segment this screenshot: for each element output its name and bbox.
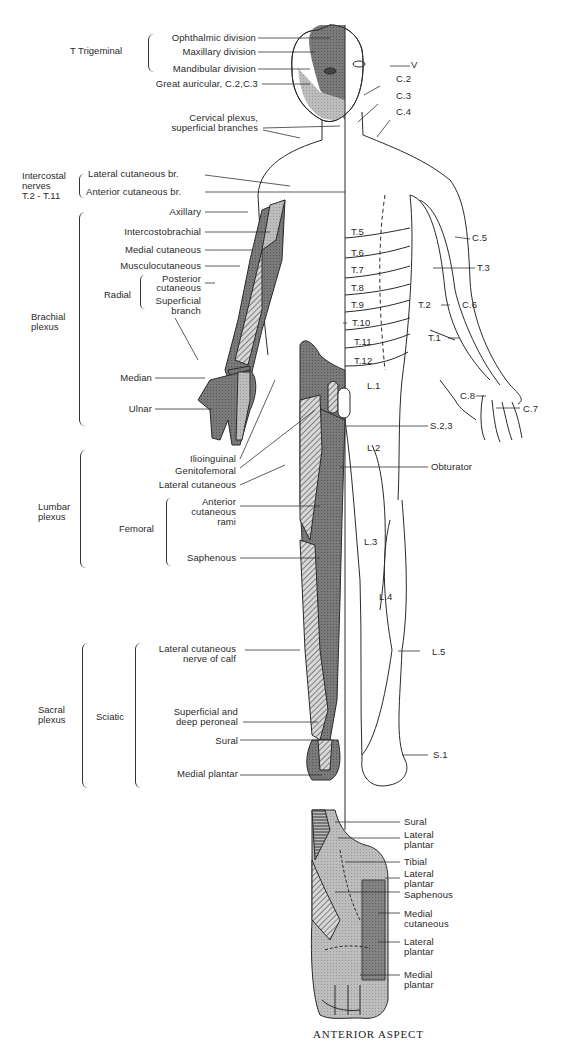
dermatome-T10: T.10 (352, 318, 370, 328)
foot-label-lateral-plantar-3b: plantar (404, 947, 434, 957)
brace-sacral (82, 643, 88, 788)
dermatome-L1: L.1 (367, 381, 381, 391)
group-sciatic: Sciatic (96, 712, 124, 722)
group-intercostal: Intercostal nerves T.2 - T.11 (22, 171, 66, 201)
group-lumbar: Lumbar plexus (38, 502, 70, 522)
dermatome-T2: T.2 (418, 300, 431, 310)
dermatome-C8: C.8 (460, 391, 475, 401)
group-trigeminal: T Trigeminal (70, 46, 122, 56)
label-median: Median (120, 373, 152, 383)
label-axillary: Axillary (170, 207, 201, 217)
label-peroneal-2: deep peroneal (176, 717, 238, 727)
dermatome-T5: T.5 (351, 227, 364, 237)
dermatome-S1: S.1 (433, 750, 448, 760)
label-genitofemoral: Genitofemoral (175, 466, 236, 476)
group-lumbar-line2: plexus (38, 512, 70, 522)
label-maxillary: Maxillary division (182, 47, 256, 57)
dermatome-T9: T.9 (351, 300, 364, 310)
brace-trigeminal (148, 34, 154, 72)
foot-label-tibial: Tibial (404, 857, 427, 867)
brace-radial (140, 275, 145, 309)
dermatome-C2: C.2 (396, 74, 411, 84)
dermatome-T6: T.6 (351, 248, 364, 258)
dermatome-C4: C.4 (396, 107, 411, 117)
dermatome-T11: T.11 (354, 337, 372, 347)
dermatome-V: V (411, 60, 417, 70)
label-calf-2: nerve of calf (183, 654, 236, 664)
label-lateral-cutaneous-br: Lateral cutaneous br. (88, 169, 179, 179)
dermatome-L2: L.2 (367, 443, 381, 453)
dermatome-T7: T.7 (351, 265, 364, 275)
foot-label-sural: Sural (404, 817, 427, 827)
label-cervical-plexus-2: superficial branches (172, 123, 259, 133)
group-brachial-line2: plexus (31, 322, 65, 332)
dermatome-C3: C.3 (396, 91, 411, 101)
label-posterior-cutaneous-2: cutaneous (156, 283, 201, 293)
foot-label-medial-cutaneous-b: cutaneous (404, 919, 449, 929)
dermatome-T8: T.8 (351, 283, 364, 293)
label-musculocutaneous: Musculocutaneous (120, 261, 201, 271)
body-outline (198, 25, 522, 830)
group-sacral-line2: plexus (38, 715, 65, 725)
brace-lumbar (80, 450, 86, 568)
foot-label-saphenous: Saphenous (404, 890, 453, 900)
brace-sciatic (135, 643, 141, 788)
label-medial-cutaneous: Medial cutaneous (125, 245, 201, 255)
dermatome-T1: T.1 (428, 333, 441, 343)
brace-brachial (79, 212, 85, 426)
label-mandibular: Mandibular division (173, 64, 256, 74)
dermatome-S23: S.2,3 (430, 421, 453, 431)
label-lateral-cutaneous: Lateral cutaneous (159, 480, 236, 490)
foot-label-lateral-plantar-1b: plantar (404, 840, 434, 850)
label-saphenous: Saphenous (187, 553, 236, 563)
group-intercostal-line3: T.2 - T.11 (22, 191, 66, 201)
label-great-auricular: Great auricular, C.2,C.3 (156, 79, 258, 89)
dermatome-T3: T.3 (477, 263, 490, 273)
label-superficial-branch-2: branch (171, 306, 201, 316)
label-medial-plantar: Medial plantar (177, 769, 238, 779)
foot-label-lateral-plantar-2b: plantar (404, 879, 434, 889)
brace-intercostal (79, 174, 84, 198)
dermatome-C6: C.6 (462, 300, 477, 310)
dermatome-L3: L.3 (364, 537, 378, 547)
dermatome-L5: L.5 (432, 647, 446, 657)
group-femoral: Femoral (119, 524, 154, 534)
dermatome-obturator: Obturator (431, 462, 472, 472)
dermatome-C7: C.7 (523, 404, 538, 414)
dermatome-C5: C.5 (472, 233, 487, 243)
group-brachial: Brachial plexus (31, 312, 65, 332)
label-intercostobrachial: Intercostobrachial (124, 227, 201, 237)
figure-caption: ANTERIOR ASPECT (313, 1028, 424, 1040)
label-anterior-rami-3: rami (217, 517, 236, 527)
label-sural: Sural (215, 736, 238, 746)
label-anterior-cutaneous-br: Anterior cutaneous br. (86, 187, 181, 197)
group-sacral: Sacral plexus (38, 705, 65, 725)
label-ilioinguinal: Ilioinguinal (190, 454, 236, 464)
label-ophthalmic: Ophthalmic division (172, 33, 256, 43)
label-ulnar: Ulnar (129, 404, 152, 414)
brace-femoral (166, 498, 171, 566)
dermatome-L4: L.4 (379, 592, 393, 602)
dermatome-T12: T.12 (354, 356, 372, 366)
foot-label-medial-plantar-b: plantar (404, 980, 434, 990)
foot-inset (311, 810, 388, 1018)
group-radial: Radial (104, 290, 131, 300)
